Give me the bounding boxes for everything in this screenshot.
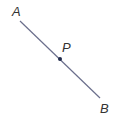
label-b: B (100, 101, 109, 116)
segment-diagram: A P B (0, 0, 118, 116)
point-p-dot (58, 57, 62, 61)
label-p: P (62, 40, 71, 55)
label-a: A (11, 4, 21, 19)
